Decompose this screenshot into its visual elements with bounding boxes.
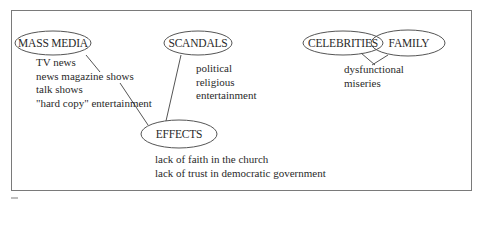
node-family-label: FAMILY — [389, 37, 430, 49]
list-item: TV news — [36, 56, 152, 70]
mass-media-items-list: TV news news magazine shows talk shows "… — [36, 56, 152, 110]
list-item: miseries — [344, 77, 404, 91]
list-item: lack of trust in democratic government — [155, 167, 326, 181]
node-mass-media-label: MASS MEDIA — [18, 37, 88, 49]
edge-scandals-to-effects — [166, 55, 181, 121]
node-celebrities-label: CELEBRITIES — [308, 37, 378, 49]
list-item: dysfunctional — [344, 63, 404, 77]
list-item: lack of faith in the church — [155, 153, 326, 167]
list-item: entertainment — [196, 89, 256, 103]
node-effects-label: EFFECTS — [156, 128, 203, 140]
effects-items-list: lack of faith in the church lack of trus… — [155, 153, 326, 180]
list-item: talk shows — [36, 83, 152, 97]
list-item: political — [196, 62, 256, 76]
corner-mark — [11, 197, 18, 199]
celebrities-family-items-list: dysfunctional miseries — [344, 63, 404, 90]
node-scandals-label: SCANDALS — [168, 37, 227, 49]
list-item: news magazine shows — [36, 70, 152, 84]
scandals-items-list: political religious entertainment — [196, 62, 256, 103]
list-item: religious — [196, 76, 256, 90]
list-item: "hard copy" entertainment — [36, 97, 152, 111]
